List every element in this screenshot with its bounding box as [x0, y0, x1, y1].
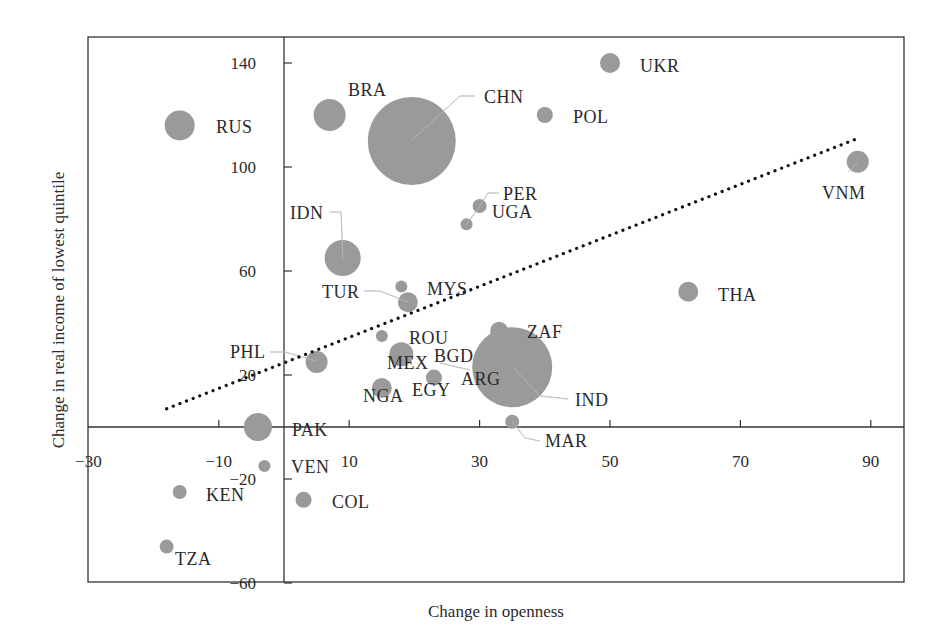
- point-label-chn: CHN: [484, 87, 524, 107]
- point-label-zaf: ZAF: [527, 322, 563, 342]
- point-label-rus: RUS: [216, 117, 253, 137]
- x-tick-label: 70: [732, 452, 749, 471]
- x-tick-label: 90: [862, 452, 879, 471]
- x-tick-label: 30: [471, 452, 488, 471]
- label-leader-lines: [270, 96, 858, 441]
- axes: −30−101030507090−60−202060100140: [75, 37, 904, 593]
- point-label-ven: VEN: [291, 457, 330, 477]
- point-label-ken: KEN: [206, 485, 245, 505]
- bubble-chn: [368, 97, 456, 185]
- point-label-arg: ARG: [461, 369, 501, 389]
- point-label-per: PER: [503, 184, 538, 204]
- point-label-bgd: BGD: [434, 346, 474, 366]
- bubble-ukr: [600, 53, 620, 73]
- x-tick-label: 50: [602, 452, 619, 471]
- y-axis-title: Change in real income of lowest quintile: [49, 172, 68, 449]
- point-label-mys: MYS: [427, 279, 468, 299]
- point-label-tur: TUR: [322, 282, 360, 302]
- bubble-pol: [537, 107, 553, 123]
- leader-line-overlay: [466, 206, 480, 225]
- point-label-nga: NGA: [363, 386, 404, 406]
- bubble-ven: [258, 460, 270, 472]
- point-label-rou: ROU: [409, 328, 449, 348]
- data-bubbles: [160, 53, 869, 554]
- y-tick-label: 140: [231, 54, 257, 73]
- x-tick-label: 10: [341, 452, 358, 471]
- bubble-bra: [314, 99, 346, 131]
- point-label-bra: BRA: [348, 80, 387, 100]
- bubble-tza: [160, 540, 174, 554]
- bubble-pak: [244, 413, 272, 441]
- point-label-uga: UGA: [492, 202, 533, 222]
- bubble-ken: [173, 485, 187, 499]
- point-label-ind: IND: [575, 390, 609, 410]
- x-axis-title: Change in openness: [428, 602, 564, 621]
- bubble-phl: [306, 351, 328, 373]
- bubble-chart: −30−101030507090−60−202060100140 RUSBRAC…: [0, 0, 942, 636]
- point-label-ukr: UKR: [640, 56, 680, 76]
- point-label-phl: PHL: [230, 342, 266, 362]
- y-tick-label: 100: [231, 158, 257, 177]
- point-label-idn: IDN: [290, 203, 324, 223]
- point-label-tha: THA: [718, 285, 757, 305]
- y-tick-label: 60: [239, 262, 256, 281]
- point-label-mex: MEX: [387, 353, 429, 373]
- bubble-tha: [678, 282, 698, 302]
- point-label-pak: PAK: [292, 420, 328, 440]
- bubble-mys: [395, 281, 407, 293]
- x-tick-label: −10: [206, 452, 233, 471]
- point-label-pol: POL: [573, 107, 609, 127]
- point-label-egy: EGY: [412, 380, 451, 400]
- x-tick-label: −30: [75, 452, 102, 471]
- point-label-col: COL: [332, 492, 370, 512]
- y-tick-label: −60: [229, 574, 256, 593]
- bubble-rou: [376, 330, 388, 342]
- point-label-vnm: VNM: [822, 183, 866, 203]
- point-labels: RUSBRACHNUKRPOLPERUGAIDNVNMMYSTURTHAROUM…: [175, 56, 866, 569]
- bubble-col: [296, 492, 312, 508]
- point-label-mar: MAR: [545, 431, 588, 451]
- point-label-tza: TZA: [175, 549, 212, 569]
- bubble-rus: [165, 110, 195, 140]
